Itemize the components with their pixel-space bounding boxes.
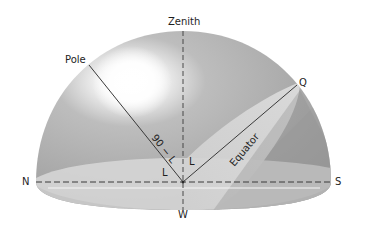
north-label: N bbox=[22, 177, 29, 187]
west-label: W bbox=[178, 210, 188, 220]
latitude-label-right: L bbox=[189, 157, 195, 167]
diagram-canvas bbox=[0, 0, 367, 239]
latitude-label-left: L bbox=[162, 168, 168, 178]
observer-point bbox=[182, 181, 185, 184]
pole-label: Pole bbox=[65, 55, 86, 65]
zenith-label: Zenith bbox=[168, 17, 200, 27]
south-label: S bbox=[335, 177, 341, 187]
q-label: Q bbox=[299, 78, 307, 88]
light-highlight bbox=[92, 46, 172, 118]
celestial-sphere-diagram: Zenith Pole Q N S W 90 − L L L Equator bbox=[0, 0, 367, 239]
